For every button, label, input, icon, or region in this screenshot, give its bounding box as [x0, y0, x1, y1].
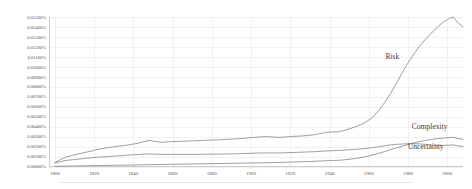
series-line-complexity [55, 137, 463, 166]
x-tick-label: 1920 [285, 171, 296, 176]
y-tick-label: 0.01300% [27, 35, 46, 40]
x-tick-label: 1980 [403, 171, 414, 176]
x-tick-label: 1860 [168, 171, 179, 176]
x-tick-label: 2000 [442, 171, 453, 176]
y-tick-label: 0.00000% [27, 164, 46, 169]
y-tick-label: 0.00500% [27, 114, 46, 119]
ngram-line-chart: 0.01500%0.01400%0.01300%0.01200%0.01100%… [0, 0, 472, 189]
y-tick-labels: 0.01500%0.01400%0.01300%0.01200%0.01100%… [27, 15, 46, 170]
series-label-risk: Risk [385, 52, 399, 61]
series-label-complexity: Complexity [412, 122, 448, 131]
y-tick-label: 0.00900% [27, 75, 46, 80]
series-line-risk [55, 17, 463, 163]
series-label-uncertainty: Uncertainty [408, 142, 444, 151]
x-tick-label: 1960 [364, 171, 375, 176]
vertical-gridlines [56, 17, 448, 167]
y-tick-label: 0.01200% [27, 45, 46, 50]
y-tick-label: 0.00400% [27, 124, 46, 129]
x-tick-label: 1900 [246, 171, 257, 176]
y-tick-label: 0.00700% [27, 94, 46, 99]
x-tick-label: 1840 [128, 171, 139, 176]
y-tick-label: 0.01400% [27, 25, 46, 30]
series-lines [55, 17, 463, 166]
x-tick-label: 1800 [50, 171, 61, 176]
y-tick-label: 0.01500% [27, 15, 46, 20]
y-tick-label: 0.01000% [27, 65, 46, 70]
x-tick-label: 1820 [89, 171, 100, 176]
y-tick-label: 0.00600% [27, 104, 46, 109]
horizontal-gridlines [49, 18, 463, 168]
y-tick-label: 0.00100% [27, 154, 46, 159]
y-tick-label: 0.00300% [27, 134, 46, 139]
x-tick-labels: 1800182018401860188019001920194019601980… [50, 171, 453, 176]
y-tick-label: 0.00800% [27, 84, 46, 89]
x-tick-label: 1940 [325, 171, 336, 176]
x-tick-label: 1880 [207, 171, 218, 176]
y-tick-label: 0.01100% [27, 55, 46, 60]
series-inline-labels: RiskComplexityUncertainty [385, 52, 447, 151]
chart-plot-area: 0.01500%0.01400%0.01300%0.01200%0.01100%… [0, 0, 472, 189]
y-tick-label: 0.00200% [27, 144, 46, 149]
